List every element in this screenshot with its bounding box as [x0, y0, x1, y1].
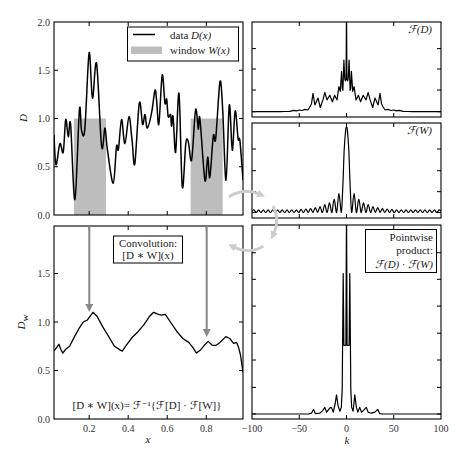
plot-area — [252, 3, 441, 112]
plot-area — [252, 127, 441, 212]
y-tick-label: 1.0 — [38, 113, 51, 124]
pointwise-line-1: Pointwise — [390, 231, 434, 243]
fourier-window-axes — [252, 123, 441, 218]
legend-entry-window-symbol: W(x) — [208, 44, 230, 57]
curved-arrow-icon — [235, 246, 264, 250]
fourier-data-label: ℱ(D) — [408, 23, 433, 36]
y-tick-label: 0.5 — [38, 365, 51, 376]
pointwise-annotation: Pointwise product: ℱ(D) · ℱ(W) — [366, 230, 437, 273]
convolution-annotation: Convolution: [D ∗ W](x) — [114, 236, 183, 263]
y-tick-label: 2.0 — [38, 17, 51, 28]
fourier-data-axes — [252, 3, 441, 117]
convolution-line — [54, 312, 243, 372]
k-axis-label: k — [345, 434, 351, 446]
legend-window-swatch — [131, 47, 162, 55]
y-tick-label: 0.0 — [38, 210, 51, 221]
fourier-window-label: ℱ(W) — [407, 124, 433, 137]
plot-area — [54, 312, 243, 372]
x-tick-label: 100 — [434, 423, 449, 434]
curved-arrow-icon — [273, 206, 277, 233]
curved-arrow-icon — [229, 191, 259, 197]
fourier-window-line — [252, 127, 441, 212]
legend: data D(x) window W(x) — [128, 27, 239, 61]
pointwise-line-2: product: — [396, 244, 433, 256]
x-tick-label: 0.8 — [200, 423, 213, 434]
x-tick-label: 0.4 — [122, 423, 135, 434]
cycle-arrows — [229, 191, 277, 250]
legend-entry-data-symbol: D(x) — [190, 29, 211, 42]
x-tick-label: 0.6 — [161, 423, 174, 434]
y-tick-label: 1.5 — [38, 65, 51, 76]
y-tick-label: 1.5 — [38, 268, 51, 279]
convolution-title: Convolution: — [119, 237, 177, 249]
figure: 0.00.51.01.52.0 0.20.40.60.80.00.51.01.5… — [0, 0, 465, 462]
x-axis-label: x — [145, 433, 151, 445]
fourier-data-line — [252, 3, 441, 112]
convolution-expression: [D ∗ W](x) — [122, 249, 174, 262]
x-tick-label: −100 — [242, 423, 263, 434]
legend-entry-window-label: window — [170, 44, 206, 56]
plot-area — [54, 53, 243, 215]
convolution-theorem-formula: [D ∗ W](x)= ℱ⁻¹{ℱ[D] · ℱ[W]} — [72, 399, 221, 412]
y-tick-label: 1.0 — [38, 317, 51, 328]
y-axis-label-main: D — [15, 321, 27, 330]
axes-frame — [252, 123, 441, 218]
legend-entry-data-label: data — [170, 29, 188, 41]
x-tick-label: 50 — [389, 423, 399, 434]
y-tick-label: 0.5 — [38, 161, 51, 172]
x-tick-label: 0.2 — [83, 423, 96, 434]
pointwise-line-3: ℱ(D) · ℱ(W) — [375, 258, 433, 271]
legend-entry-data: data D(x) — [170, 29, 212, 42]
x-tick-label: −50 — [291, 423, 307, 434]
y-axis-label-d: D — [17, 114, 29, 123]
x-tick-label: 0 — [344, 423, 349, 434]
y-tick-label: 0.0 — [38, 414, 51, 425]
legend-entry-window: window W(x) — [170, 44, 230, 57]
y-axis-label-dw: DW — [15, 315, 30, 331]
y-axis-label-subscript: W — [22, 315, 30, 322]
